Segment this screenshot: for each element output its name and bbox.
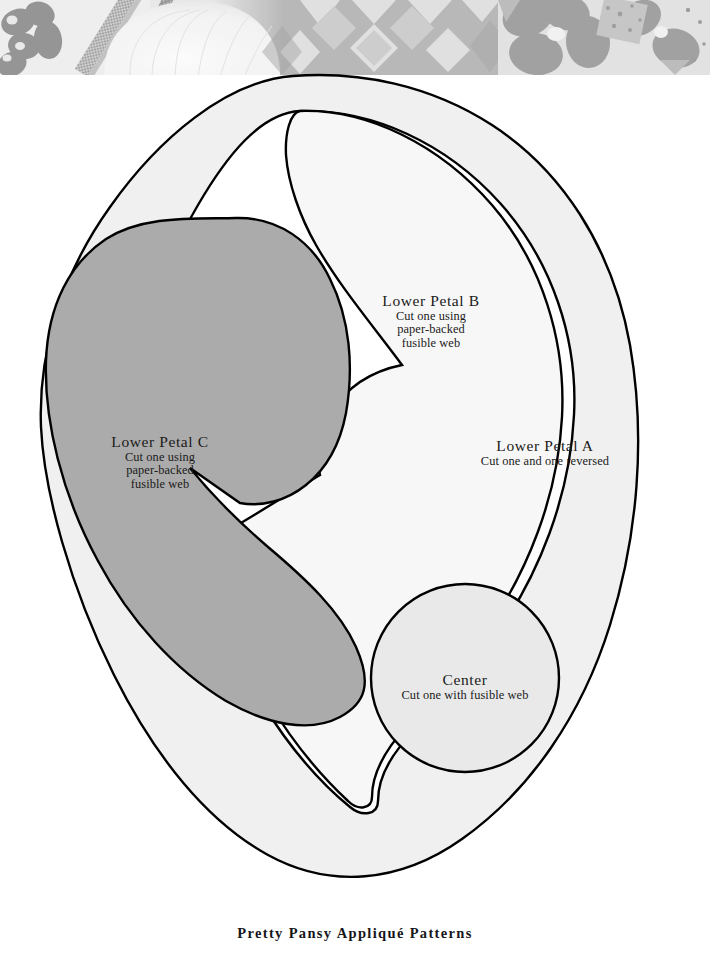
lower-petal-b-title: Lower Petal B (323, 293, 539, 310)
label-lower-petal-b: Lower Petal B Cut one using paper-backed… (323, 293, 539, 350)
lower-petal-a-title: Lower Petal A (400, 438, 690, 455)
lower-petal-b-line-1: Cut one using (323, 310, 539, 323)
page-caption: Pretty Pansy Appliqué Patterns (0, 925, 710, 942)
lower-petal-c-line-3: fusible web (52, 478, 268, 491)
lower-petal-c-line-1: Cut one using (52, 451, 268, 464)
lower-petal-c-line-2: paper-backed (52, 464, 268, 477)
lower-petal-c-title: Lower Petal C (52, 434, 268, 451)
label-lower-petal-c: Lower Petal C Cut one using paper-backed… (52, 434, 268, 491)
center-line-1: Cut one with fusible web (360, 689, 570, 702)
label-lower-petal-a: Lower Petal A Cut one and one reversed (400, 438, 690, 468)
label-center: Center Cut one with fusible web (360, 672, 570, 702)
lower-petal-b-line-2: paper-backed (323, 323, 539, 336)
lower-petal-b-line-3: fusible web (323, 337, 539, 350)
center-title: Center (360, 672, 570, 689)
lower-petal-a-line-1: Cut one and one reversed (400, 455, 690, 468)
appliqué-pattern-page: Lower Petal B Cut one using paper-backed… (0, 0, 710, 963)
